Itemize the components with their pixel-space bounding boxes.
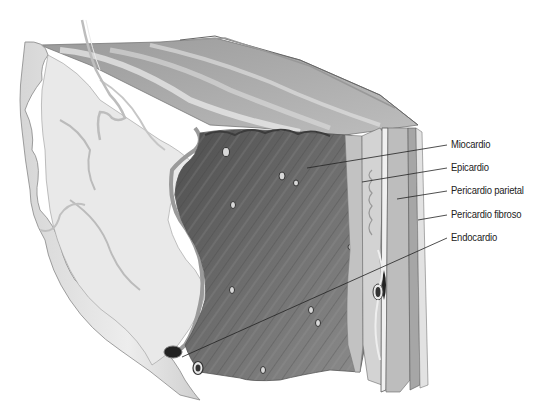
heart-wall-illustration	[0, 0, 536, 412]
label-pericardio-fibroso: Pericardio fibroso	[451, 208, 521, 220]
label-pericardio-parietal: Pericardio parietal	[451, 184, 524, 196]
label-endocardio: Endocardio	[451, 231, 497, 243]
pericardial-layers	[345, 128, 428, 392]
label-epicardio: Epicardio	[451, 161, 489, 173]
label-miocardio: Miocardio	[451, 138, 490, 150]
myocardium-block	[175, 129, 365, 380]
